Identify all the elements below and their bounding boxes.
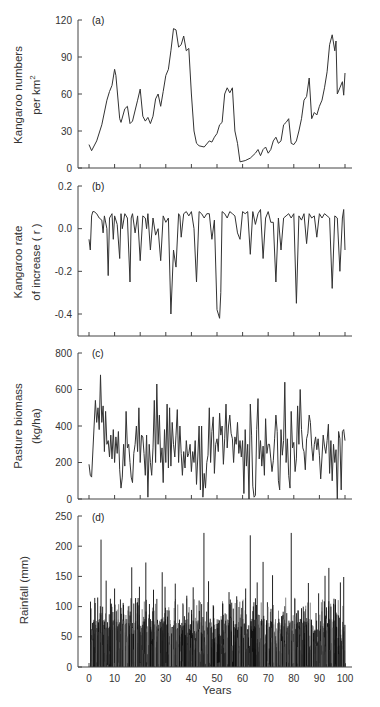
rainfall-bar	[186, 596, 187, 667]
rainfall-bar	[229, 592, 230, 667]
rainfall-bar	[263, 562, 264, 667]
panel-c-label: (c)	[92, 348, 104, 359]
rainfall-bar	[95, 603, 96, 667]
y-tick-label: 60	[61, 89, 73, 100]
y-tick-label: 250	[55, 511, 72, 522]
panel-d-xlabel: Years	[203, 684, 232, 696]
panel-c-pasture-biomass-line	[89, 375, 345, 499]
panel-b-axes: 0.20.0-0.2-0.4	[55, 181, 352, 337]
y-tick-label: 0.0	[58, 223, 72, 234]
rainfall-bar	[131, 567, 132, 667]
x-tick-label: 100	[337, 673, 354, 684]
panel-a-ylabel-line2: per km2	[28, 75, 42, 115]
rainfall-bar	[257, 582, 258, 667]
panel-b-ylabel: Kangaroo rate	[12, 226, 24, 299]
y-tick-label: 50	[61, 631, 73, 642]
rainfall-bar	[236, 596, 237, 667]
panel-d: Rainfall (mm) 05010015020025001020304050…	[18, 511, 354, 697]
panel-c-ylabel-line2: (kg/ha)	[30, 408, 42, 444]
x-tick-label: 80	[288, 673, 300, 684]
rainfall-bar	[120, 608, 121, 667]
panel-a-axes: 0306090120	[55, 15, 352, 174]
y-tick-label: 150	[55, 571, 72, 582]
rainfall-bar	[162, 572, 163, 667]
rainfall-bar	[328, 568, 329, 667]
rainfall-bar	[318, 593, 319, 667]
panel-b-label: (b)	[92, 181, 104, 192]
rainfall-bar	[291, 533, 292, 667]
panel-b-rate-of-increase-line	[89, 210, 345, 319]
rainfall-bar	[340, 582, 341, 667]
rainfall-bar	[308, 583, 309, 667]
x-tick-label: 60	[237, 673, 249, 684]
y-tick-label: 30	[61, 126, 73, 137]
y-tick-label: 800	[55, 348, 72, 359]
y-tick-label: -0.2	[55, 266, 73, 277]
rainfall-bar	[303, 607, 304, 667]
rainfall-bar	[222, 604, 223, 667]
x-tick-label: 90	[314, 673, 326, 684]
y-tick-label: -0.4	[55, 309, 73, 320]
panel-c: Pasture biomass (kg/ha) 0200400600800 (c…	[12, 348, 352, 505]
rainfall-bar	[272, 575, 273, 667]
rainfall-bar	[135, 598, 136, 667]
y-tick-label: 200	[55, 457, 72, 468]
y-tick-label: 400	[55, 421, 72, 432]
rainfall-bar	[175, 584, 176, 667]
y-tick-label: 100	[55, 601, 72, 612]
rainfall-bar	[106, 581, 107, 667]
y-tick-label: 0	[66, 662, 72, 673]
rainfall-bar	[97, 598, 98, 668]
rainfall-bar	[153, 590, 154, 667]
panel-c-ylabel: Pasture biomass	[12, 383, 24, 469]
rainfall-bar	[245, 589, 246, 668]
y-tick-label: 0	[66, 494, 72, 505]
y-tick-label: 200	[55, 541, 72, 552]
x-tick-label: 70	[263, 673, 275, 684]
y-tick-label: 0	[66, 163, 72, 174]
rainfall-bar	[333, 599, 334, 667]
rainfall-bar	[343, 577, 344, 667]
x-tick-label: 40	[186, 673, 198, 684]
panel-b-ylabel-line2: of increase ( r )	[30, 223, 42, 300]
panel-d-rainfall-bars	[90, 533, 346, 667]
x-tick-label: 0	[86, 673, 92, 684]
panel-d-label: (d)	[92, 512, 104, 523]
x-tick-label: 20	[135, 673, 147, 684]
rainfall-bar	[193, 587, 194, 667]
rainfall-bar	[90, 642, 91, 667]
panel-a-kangaroo-numbers-line	[89, 29, 345, 162]
x-tick-label: 30	[160, 673, 172, 684]
y-tick-label: 0.2	[58, 181, 72, 192]
x-tick-label: 10	[109, 673, 121, 684]
rainfall-bar	[250, 535, 251, 667]
rainfall-bar	[111, 604, 112, 667]
y-tick-label: 120	[55, 15, 72, 26]
figure-four-panel-chart: Kangaroo numbers per km2 0306090120 (a) …	[0, 0, 380, 707]
rainfall-bar	[165, 587, 166, 667]
panel-a: Kangaroo numbers per km2 0306090120 (a)	[12, 15, 352, 174]
x-tick-label: 50	[211, 673, 223, 684]
rainfall-bar	[325, 576, 326, 667]
rainfall-bar	[139, 587, 140, 667]
panel-b: Kangaroo rate of increase ( r ) 0.20.0-0…	[12, 181, 352, 337]
y-tick-label: 600	[55, 384, 72, 395]
rainfall-bar	[101, 540, 102, 667]
rainfall-bar	[203, 533, 204, 667]
rainfall-bar	[145, 563, 146, 668]
panel-a-label: (a)	[92, 15, 104, 26]
panel-a-ylabel: Kangaroo numbers	[12, 46, 24, 144]
rainfall-bar	[114, 589, 115, 668]
y-tick-label: 90	[61, 52, 73, 63]
rainfall-bar	[208, 581, 209, 667]
panel-d-ylabel: Rainfall (mm)	[18, 556, 30, 625]
